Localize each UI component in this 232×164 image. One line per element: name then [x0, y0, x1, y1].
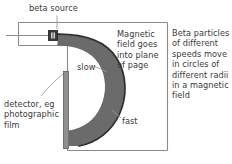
label-fast: fast: [122, 116, 138, 126]
detector-bar: [64, 72, 69, 149]
label-beta-particles: Beta particles of different speeds move …: [172, 28, 230, 101]
label-slow: slow: [77, 62, 95, 72]
detector-film-strip: [64, 72, 69, 149]
label-beta-source: beta source: [29, 3, 78, 13]
beta-deflection-figure: beta source Magnetic field goes into pla…: [0, 0, 232, 164]
label-detector: detector, eg photographic film: [4, 99, 62, 130]
label-magnetic-field: Magnetic field goes into plane of page: [117, 29, 167, 71]
leader-detector: [41, 74, 63, 96]
beta-source-box: [49, 31, 58, 41]
